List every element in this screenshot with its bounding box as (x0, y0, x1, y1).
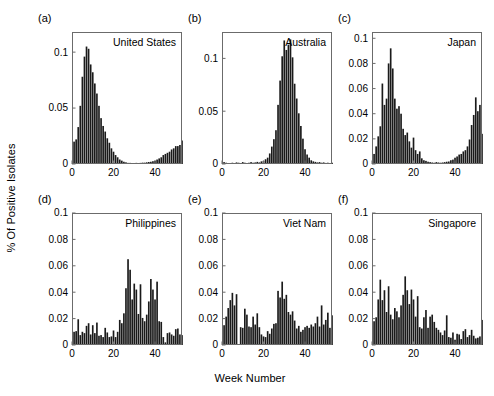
bar (146, 315, 148, 345)
bar (386, 99, 388, 164)
bar (306, 326, 308, 345)
y-tick-label: 0.1 (54, 207, 68, 218)
bar (236, 294, 238, 345)
bar (296, 329, 298, 346)
bar (417, 296, 419, 345)
bar (413, 299, 415, 345)
bar (275, 323, 277, 345)
panel-tag-c: (c) (338, 12, 351, 24)
y-axis-label: % Of Positive Isolates (0, 0, 22, 396)
bar (92, 325, 94, 345)
bar (138, 314, 140, 345)
x-tick-label: 0 (369, 167, 375, 178)
bar (286, 295, 288, 345)
bar (294, 321, 296, 345)
bar (402, 295, 404, 345)
bar (321, 305, 323, 345)
bar (317, 317, 319, 345)
bar (106, 138, 108, 164)
y-tick-label: 0.04 (49, 287, 69, 298)
bar (327, 313, 329, 345)
chart-viet-nam: 0204000.020.040.060.080.1Viet Nam (188, 207, 336, 367)
bar (448, 337, 450, 345)
bar (456, 156, 458, 164)
bar (379, 126, 381, 164)
bar (440, 332, 442, 345)
y-tick-label: 0 (362, 158, 368, 169)
y-tick-label: 0.1 (354, 207, 368, 218)
bar (162, 337, 164, 345)
bar (94, 333, 96, 345)
bar (229, 300, 231, 345)
bar (240, 327, 242, 345)
bar (269, 334, 271, 345)
bar (290, 39, 292, 164)
bar (150, 279, 152, 345)
bar (106, 332, 108, 345)
bar (388, 286, 390, 345)
bar (259, 327, 261, 345)
bar (382, 84, 384, 164)
bar (423, 317, 425, 345)
bar (177, 329, 179, 346)
bar (475, 97, 477, 164)
bar (450, 338, 452, 345)
bar (281, 56, 283, 164)
x-tick-label: 20 (258, 348, 270, 359)
y-tick-label: 0.1 (354, 33, 368, 44)
bar (296, 99, 298, 164)
y-tick-label: 0.02 (349, 133, 369, 144)
bar (223, 325, 225, 345)
bar (471, 330, 473, 345)
bar (115, 155, 117, 164)
bar (90, 334, 92, 345)
chart-japan: 0204000.020.040.060.080.1Japan (338, 26, 486, 186)
bar (102, 337, 104, 345)
bar (111, 148, 113, 164)
bar (165, 154, 167, 164)
bar (294, 84, 296, 164)
y-tick-label: 0.05 (49, 102, 69, 113)
y-tick-label: 0 (62, 158, 68, 169)
y-tick-label: 0.08 (349, 58, 369, 69)
bar (109, 337, 111, 345)
bar (273, 324, 275, 345)
panel-title: Philippines (125, 217, 176, 229)
bar (96, 323, 98, 345)
y-tick-label: 0 (362, 339, 368, 350)
bar (392, 68, 394, 164)
bar (473, 115, 475, 164)
y-tick-label: 0.02 (49, 313, 69, 324)
bar (234, 305, 236, 345)
bar (452, 332, 454, 345)
bar (386, 312, 388, 345)
bar (419, 327, 421, 345)
bar (456, 334, 458, 345)
bar (283, 40, 285, 164)
bar (458, 155, 460, 164)
bar (288, 45, 290, 164)
bar (109, 143, 111, 164)
bar (179, 145, 181, 164)
bar (98, 106, 100, 164)
bar (394, 99, 396, 164)
y-tick-label: 0.1 (54, 47, 68, 58)
panel-title: United States (113, 36, 176, 48)
bar (248, 327, 250, 345)
y-tick-label: 0 (62, 339, 68, 350)
y-tick-label: 0.1 (204, 53, 218, 64)
chart-singapore: 0204000.020.040.060.080.1Singapore (338, 207, 486, 367)
bar (102, 126, 104, 164)
bar (275, 130, 277, 164)
bar (292, 311, 294, 345)
bar (252, 317, 254, 345)
bar (377, 136, 379, 164)
bar (425, 310, 427, 345)
bar (171, 334, 173, 345)
bar (169, 332, 171, 345)
bar (121, 323, 123, 345)
x-tick-label: 40 (149, 167, 161, 178)
bar (392, 319, 394, 345)
bar (167, 333, 169, 345)
bar (133, 284, 135, 345)
